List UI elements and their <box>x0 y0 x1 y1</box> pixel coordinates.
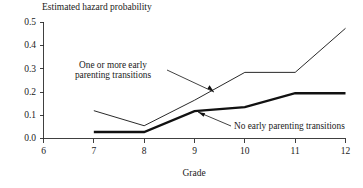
x-tick-label-9: 9 <box>185 146 205 157</box>
annotation-one-or-more-line2: parenting transitions <box>58 70 168 80</box>
y-tick-label-0: 0.0 <box>12 133 36 144</box>
y-axis-title: Estimated hazard probability <box>42 2 152 13</box>
annotation-no-early-line1: No early parenting transitions <box>234 121 345 131</box>
x-tick-label-8: 8 <box>134 146 154 157</box>
y-axis-ticks <box>40 23 44 139</box>
annotation-no-early-parenting-transitions: No early parenting transitions <box>234 121 345 131</box>
y-tick-label-4: 0.4 <box>12 40 36 51</box>
x-tick-label-10: 10 <box>235 146 255 157</box>
x-tick-label-7: 7 <box>84 146 104 157</box>
y-tick-label-2: 0.2 <box>12 87 36 98</box>
x-tick-label-12: 12 <box>336 146 356 157</box>
x-axis-ticks <box>44 139 346 143</box>
annotation-leader-one-or-more <box>167 70 214 92</box>
y-tick-label-3: 0.3 <box>12 64 36 75</box>
annotation-leader-no-early <box>198 112 231 126</box>
x-tick-label-11: 11 <box>285 146 305 157</box>
chart-plot-area <box>0 0 363 188</box>
x-axis-title: Grade <box>164 168 224 179</box>
y-tick-label-5: 0.5 <box>12 17 36 28</box>
annotation-one-or-more-line1: One or more early <box>58 60 168 70</box>
y-tick-label-1: 0.1 <box>12 110 36 121</box>
x-tick-label-6: 6 <box>34 146 54 157</box>
hazard-probability-chart: Estimated hazard probability 0.0 0.1 0.2… <box>0 0 363 188</box>
annotation-one-or-more-early-parenting-transitions: One or more early parenting transitions <box>58 60 168 81</box>
